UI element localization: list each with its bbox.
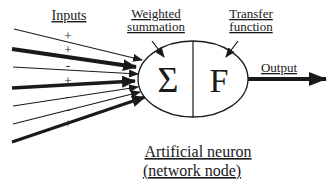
- transfer-label-line2: function: [229, 19, 273, 34]
- input-sign-4: +: [64, 73, 71, 88]
- input-arrow-5: [13, 87, 138, 106]
- input-arrow-2: [12, 49, 136, 67]
- input-sign-3: -: [66, 58, 70, 73]
- neuron-node: Σ F: [138, 41, 248, 117]
- input-sign-2: +: [64, 42, 71, 57]
- output-label: Output: [261, 60, 298, 75]
- input-arrow-4: [12, 81, 135, 88]
- transfer-function-icon: F: [210, 62, 229, 99]
- input-arrow-3: [13, 67, 138, 74]
- diagram-title-line2: (network node): [143, 162, 241, 180]
- input-sign-1: +: [64, 28, 71, 43]
- input-arrow-1: [14, 29, 142, 60]
- input-arrows: [12, 29, 145, 142]
- input-sign-7: +: [64, 116, 71, 131]
- input-sign-6: -: [66, 102, 70, 117]
- artificial-neuron-diagram: + + - + - - + Σ F Inputs Weighted summat…: [0, 0, 332, 186]
- inputs-label: Inputs: [52, 8, 87, 23]
- input-signs: + + - + - - +: [64, 28, 71, 131]
- diagram-title-line1: Artificial neuron: [144, 143, 251, 160]
- weighted-label-line2: summation: [127, 19, 185, 34]
- sigma-icon: Σ: [158, 60, 179, 100]
